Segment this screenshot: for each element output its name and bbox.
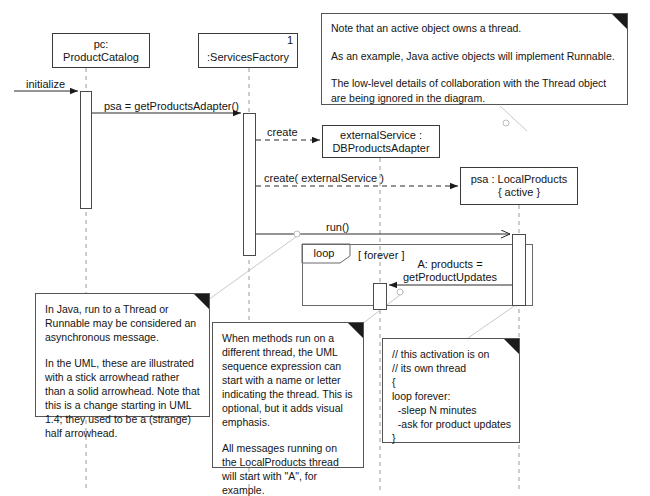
note-paragraph: Note that an active object owns a thread… [331, 21, 618, 36]
code-line: -sleep N minutes [392, 403, 510, 417]
message-label-line2: getProductUpdates [403, 271, 497, 283]
note-folded-corner-icon [612, 14, 627, 29]
note-folded-corner-icon [194, 294, 209, 309]
lifeline-name-line2: DBProductsAdapter [332, 142, 429, 155]
message-label-initialize: initialize [26, 78, 65, 91]
code-line: } [392, 431, 510, 445]
anchor-dot-async-arrowhead [294, 231, 300, 237]
note-paragraph: All messages running on the LocalProduct… [222, 441, 354, 496]
note-paragraph: In Java, run to a Thread or Runnable may… [45, 302, 200, 344]
lifeline-head-external-service[interactable]: externalService : DBProductsAdapter [322, 125, 440, 158]
loop-fragment-operator: loop [302, 244, 346, 263]
message-label-create-local-products: create( externalService ) [264, 172, 384, 185]
note-paragraph: In the UML, these are illustrated with a… [45, 356, 200, 440]
code-line: loop forever: [392, 389, 510, 403]
sequence-diagram-canvas: pc: ProductCatalog 1 :ServicesFactory ex… [0, 0, 650, 496]
code-line: // this activation is on [392, 347, 510, 361]
lifeline-name-line2: ProductCatalog [63, 51, 139, 64]
lifeline-head-local-products[interactable]: psa : LocalProducts { active } [460, 167, 578, 205]
multiplicity-label: 1 [287, 35, 293, 46]
lifeline-head-services-factory[interactable]: 1 :ServicesFactory [198, 33, 298, 68]
note-paragraph: When methods run on a different thread, … [222, 331, 354, 429]
lifeline-name-line1: externalService : [340, 129, 422, 142]
lifeline-name-line1: psa : LocalProducts [471, 173, 568, 186]
activation-services-factory[interactable] [243, 113, 256, 256]
lifeline-name-line2: :ServicesFactory [207, 51, 289, 64]
anchor-line-active-object [500, 106, 527, 131]
message-label-get-products-adapter: psa = getProductsAdapter() [104, 100, 239, 113]
lifeline-head-product-catalog[interactable]: pc: ProductCatalog [52, 33, 150, 68]
anchor-line-activation-code [468, 302, 520, 338]
note-paragraph: As an example, Java active objects will … [331, 49, 618, 64]
message-label-line1: A: products = [417, 258, 482, 270]
code-line: -ask for product updates [392, 417, 510, 431]
message-label-create-external-service: create [267, 126, 298, 139]
activation-product-catalog[interactable] [80, 91, 92, 209]
note-folded-corner-icon [348, 323, 363, 338]
note-activation-code: // this activation is on // its own thre… [382, 338, 520, 443]
note-thread-naming: When methods run on a different thread, … [212, 322, 364, 468]
lifeline-name-line2: { active } [498, 186, 540, 199]
anchor-dot-active-object [503, 120, 509, 126]
code-line: // its own thread [392, 361, 510, 375]
note-paragraph: The low-level details of collaboration w… [331, 76, 618, 105]
message-label-run: run() [326, 221, 349, 234]
code-line: { [392, 375, 510, 389]
activation-external-service[interactable] [373, 283, 387, 310]
message-label-get-product-updates: A: products = getProductUpdates [388, 258, 512, 284]
note-active-object: Note that an active object owns a thread… [321, 13, 628, 105]
note-folded-corner-icon [504, 339, 519, 354]
activation-local-products[interactable] [512, 234, 526, 306]
lifeline-name-line1: pc: [94, 38, 109, 51]
note-async-arrowhead: In Java, run to a Thread or Runnable may… [35, 293, 210, 417]
